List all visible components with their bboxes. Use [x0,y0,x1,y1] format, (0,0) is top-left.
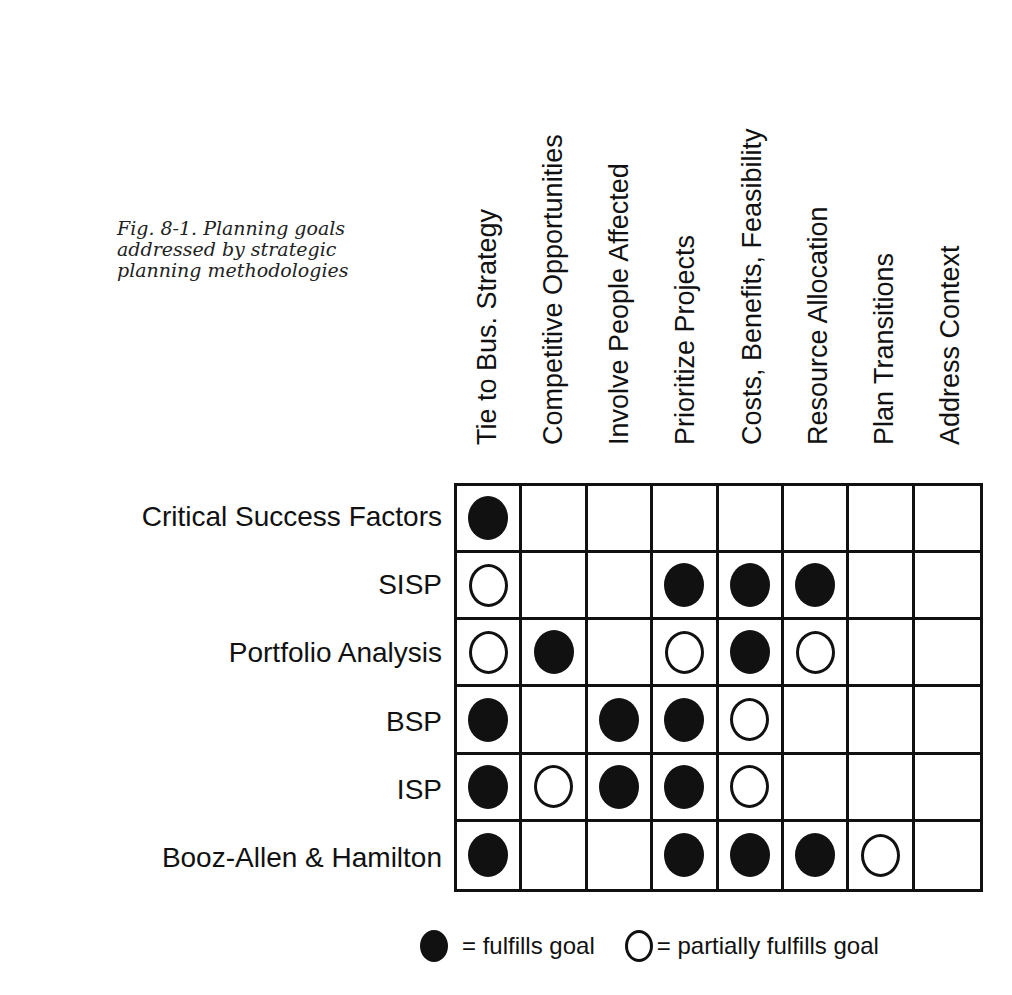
matrix-cell [522,687,587,754]
filled-circle-icon [730,630,770,674]
matrix-cell [457,687,522,754]
matrix-cell [457,822,522,889]
column-header-label: Prioritize Projects [670,235,700,445]
row-label: BSP [386,688,442,756]
row-label: Booz-Allen & Hamilton [162,824,442,892]
matrix-cell [719,486,784,553]
column-header-label: Plan Transitions [869,253,899,445]
column-header: Involve People Affected [586,0,652,475]
open-circle-icon [665,631,704,674]
matrix-cell [588,553,653,620]
column-header: Prioritize Projects [652,0,718,475]
open-circle-icon [625,930,653,962]
matrix-cell [915,486,980,553]
column-header-label: Involve People Affected [604,163,634,445]
matrix-cell [457,486,522,553]
filled-circle-icon [468,833,508,877]
matrix-cell [784,486,849,553]
row-label: Critical Success Factors [142,483,442,551]
open-circle-icon [730,698,769,741]
column-header: Plan Transitions [851,0,917,475]
filled-circle-icon [664,765,704,809]
goals-matrix [454,483,983,892]
matrix-cell [522,486,587,553]
matrix-cell [915,620,980,687]
matrix-cell [522,755,587,822]
filled-circle-icon [795,833,835,877]
filled-circle-icon [664,698,704,742]
column-header: Tie to Bus. Strategy [454,0,520,475]
filled-circle-icon [599,765,639,809]
matrix-cell [719,620,784,687]
open-circle-icon [469,564,508,607]
matrix-cell [915,687,980,754]
matrix-cell [784,620,849,687]
column-header-label: Resource Allocation [803,206,833,445]
filled-circle-icon [534,630,574,674]
matrix-cell [849,687,914,754]
filled-circle-icon [730,833,770,877]
open-circle-icon [861,834,900,877]
open-circle-icon [730,765,769,808]
filled-circle-icon [599,698,639,742]
column-header: Resource Allocation [785,0,851,475]
matrix-cell [588,755,653,822]
matrix-cell [653,687,718,754]
column-header-label: Competitive Opportunities [538,134,568,445]
matrix-cell [588,620,653,687]
matrix-cell [849,486,914,553]
column-header-label: Address Context [935,245,965,445]
open-circle-icon [534,765,573,808]
matrix-cell [457,755,522,822]
matrix-cell [915,755,980,822]
filled-circle-icon [468,765,508,809]
matrix-cell [588,687,653,754]
matrix-cell [522,620,587,687]
open-circle-icon [469,631,508,674]
matrix-cell [653,822,718,889]
matrix-cell [457,620,522,687]
filled-circle-icon [420,930,448,962]
matrix-cell [915,822,980,889]
matrix-cell [588,822,653,889]
matrix-cell [784,755,849,822]
matrix-cell [849,755,914,822]
matrix-cell [849,553,914,620]
matrix-cell [719,822,784,889]
matrix-cell [719,755,784,822]
column-header-label: Costs, Benefits, Feasibility [737,128,767,445]
matrix-cell [784,687,849,754]
figure-caption: Fig. 8-1. Planning goals addressed by st… [117,218,357,281]
matrix-cell [653,553,718,620]
column-header: Competitive Opportunities [520,0,586,475]
filled-circle-icon [468,698,508,742]
matrix-cell [522,822,587,889]
matrix-cell [784,553,849,620]
row-label: Portfolio Analysis [229,619,442,687]
row-label: SISP [378,551,442,619]
filled-circle-icon [468,496,508,540]
column-header-label: Tie to Bus. Strategy [472,209,502,445]
matrix-cell [784,822,849,889]
legend-partial-label: = partially fulfills goal [657,932,879,960]
matrix-cell [849,620,914,687]
legend-full-label: = fulfills goal [462,932,595,960]
column-header: Address Context [917,0,983,475]
open-circle-icon [796,631,835,674]
matrix-cell [653,755,718,822]
matrix-cell [915,553,980,620]
matrix-cell [653,486,718,553]
legend: = fulfills goal = partially fulfills goa… [420,930,879,962]
matrix-cell [588,486,653,553]
filled-circle-icon [730,563,770,607]
matrix-cell [522,553,587,620]
filled-circle-icon [664,833,704,877]
matrix-cell [653,620,718,687]
matrix-cell [719,553,784,620]
column-header: Costs, Benefits, Feasibility [719,0,785,475]
matrix-cell [457,553,522,620]
filled-circle-icon [795,563,835,607]
matrix-cell [719,687,784,754]
row-label: ISP [397,756,442,824]
filled-circle-icon [664,563,704,607]
